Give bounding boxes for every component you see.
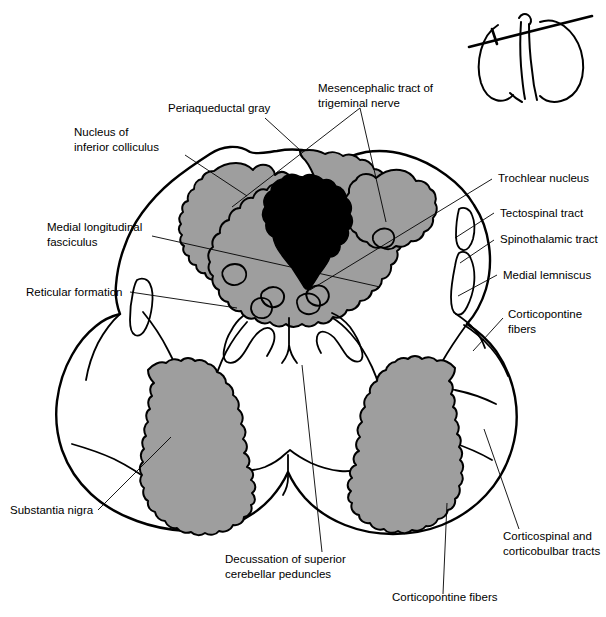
brainstem-orientation-inset	[469, 14, 592, 102]
label-medial-lemniscus: Medial lemniscus	[503, 269, 591, 281]
label-line: Substantia nigra	[10, 504, 94, 516]
label-line: fibers	[508, 323, 536, 335]
label-reticular-formation: Reticular formation	[26, 286, 123, 298]
label-corticospinal-and-corticobulbar-tracts: Corticospinal andcorticobulbar tracts	[503, 530, 600, 557]
label-corticopontine-fibers-bottom: Corticopontine fibers	[392, 591, 498, 603]
inset-brainstem-body-2	[529, 24, 537, 100]
inset-cerebellum-outline	[540, 21, 583, 102]
label-substantia-nigra: Substantia nigra	[10, 504, 94, 516]
label-mesencephalic-tract-of-trigeminal-nerve: Mesencephalic tract oftrigeminal nerve	[318, 82, 434, 109]
label-line: Nucleus of	[74, 126, 129, 138]
label-line: Tectospinal tract	[500, 207, 584, 219]
label-line: fasciculus	[47, 236, 98, 248]
midbrain-cross-section-diagram: Nucleus ofinferior colliculusPeriaqueduc…	[0, 0, 606, 617]
label-line: trigeminal nerve	[318, 97, 400, 109]
periaqueductal-inferior-gray-blob-left	[261, 287, 284, 307]
label-spinothalamic-tract: Spinothalamic tract	[500, 233, 599, 245]
label-line: Corticopontine	[508, 308, 582, 320]
label-line: Periaqueductal gray	[168, 102, 271, 114]
label-corticopontine-fibers-right: Corticopontinefibers	[508, 308, 582, 335]
label-line: Spinothalamic tract	[500, 233, 599, 245]
label-trochlear-nucleus: Trochlear nucleus	[498, 172, 589, 184]
label-line: Reticular formation	[26, 286, 123, 298]
label-line: Corticospinal and	[503, 530, 592, 542]
figure-root: Nucleus ofinferior colliculusPeriaqueduc…	[0, 0, 606, 617]
label-line: Medial lemniscus	[503, 269, 591, 281]
label-line: Medial longitudinal	[47, 221, 142, 233]
leader-periaqueductal-gray	[265, 118, 300, 150]
label-nucleus-of-inferior-colliculus: Nucleus ofinferior colliculus	[74, 126, 159, 153]
label-decussation-of-superior-cerebellar-peduncles: Decussation of superiorcerebellar pedunc…	[225, 553, 346, 580]
label-line: Corticopontine fibers	[392, 591, 498, 603]
label-line: corticobulbar tracts	[503, 545, 600, 557]
label-tectospinal-tract: Tectospinal tract	[500, 207, 584, 219]
label-line: Decussation of superior	[225, 553, 346, 565]
label-line: cerebellar peduncles	[225, 568, 331, 580]
label-line: Trochlear nucleus	[498, 172, 589, 184]
label-line: Mesencephalic tract of	[318, 82, 434, 94]
label-periaqueductal-gray: Periaqueductal gray	[168, 102, 271, 114]
label-line: inferior colliculus	[74, 141, 159, 153]
